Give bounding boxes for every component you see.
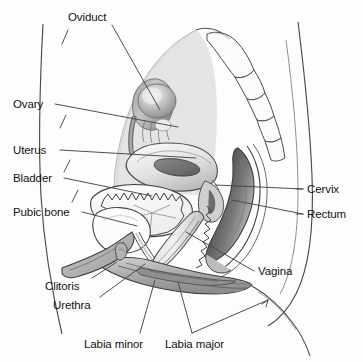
label-oviduct: Oviduct <box>68 11 106 24</box>
label-rectum: Rectum <box>307 208 346 221</box>
posterior-buttock-outline <box>268 22 312 326</box>
thigh-outline <box>252 286 310 356</box>
anatomical-figure: OviductOvaryUterusBladderPubic boneClito… <box>0 0 363 362</box>
leader-labia-minor <box>140 280 155 333</box>
label-urethra: Urethra <box>53 299 91 312</box>
label-ovary: Ovary <box>13 98 43 111</box>
label-pubic-bone: Pubic bone <box>13 206 70 219</box>
leader-cervix <box>215 185 303 189</box>
label-clitoris: Clitoris <box>45 280 79 293</box>
label-labia-major: Labia major <box>165 338 224 351</box>
label-uterus: Uterus <box>13 144 46 157</box>
label-labia-minor: Labia minor <box>84 338 143 351</box>
label-vagina: Vagina <box>258 265 292 278</box>
label-cervix: Cervix <box>307 183 339 196</box>
label-bladder: Bladder <box>13 172 52 185</box>
